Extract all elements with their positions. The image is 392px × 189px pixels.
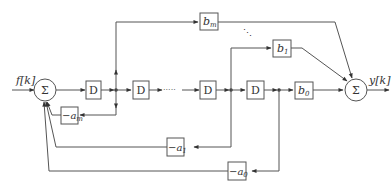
branch-line	[116, 22, 198, 72]
delay-block: D	[200, 81, 216, 99]
output-label: y[k]	[368, 74, 391, 87]
gain-bm: bm	[200, 13, 218, 30]
sum-symbol: Σ	[41, 84, 49, 97]
gain-b0: b0	[295, 82, 313, 99]
vertical-ellipsis: ⋱	[243, 28, 252, 38]
output-summer: Σ	[345, 79, 367, 101]
branch-line	[252, 90, 279, 171]
delay-label: D	[137, 84, 146, 97]
gain-b1: b1	[273, 40, 291, 57]
delay-block: D	[86, 81, 101, 99]
delay-label: D	[251, 84, 260, 97]
delay-label: D	[89, 84, 98, 97]
ellipsis: ·····	[163, 85, 176, 94]
gain-am: −am	[61, 107, 83, 124]
block-diagram: f[k] Σ D bm −am D ····· D	[0, 0, 392, 189]
delay-block: D	[133, 81, 149, 99]
input-label: f[k]	[15, 74, 36, 87]
feedback-line	[47, 102, 61, 115]
gain-a1: −a1	[167, 138, 187, 156]
gain-a0: −a0	[228, 162, 248, 180]
branch-line	[80, 106, 116, 115]
input-summer: Σ	[34, 79, 56, 101]
delay-label: D	[204, 84, 213, 97]
sum-symbol: Σ	[352, 84, 360, 97]
signal-line	[291, 48, 347, 81]
delay-block: D	[247, 81, 264, 99]
